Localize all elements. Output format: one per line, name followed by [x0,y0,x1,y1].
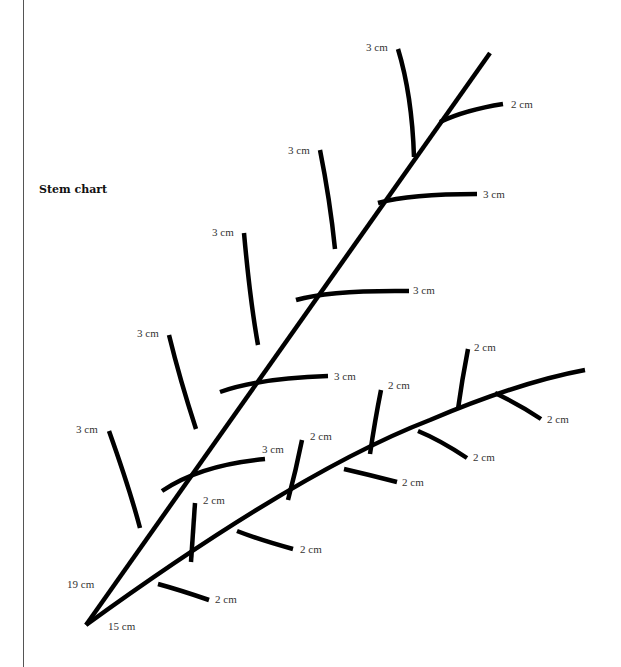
lower-branch-1-label: 2 cm [215,593,237,605]
lower-branch-4 [288,440,302,500]
upper-stem-axis [86,53,490,625]
lower-branch-7-label: 2 cm [473,451,495,463]
lower-branch-7 [418,431,467,458]
lower-branch-4-label: 2 cm [310,430,332,442]
upper-branch-7-label: 3 cm [288,144,310,156]
upper-branch-4-label: 3 cm [334,370,356,382]
upper-stem-length-label: 19 cm [67,578,95,590]
upper-branch-9-label: 3 cm [366,41,388,53]
lower-branch-8 [458,349,468,409]
upper-branch-8 [378,194,477,203]
upper-branch-2 [162,459,265,491]
lower-branch-9-label: 2 cm [547,413,569,425]
lower-branch-3 [237,531,293,549]
upper-branch-7 [320,150,335,249]
upper-branch-5 [244,233,258,345]
upper-branch-1 [109,431,140,528]
upper-branch-10-label: 2 cm [511,98,533,110]
lower-branch-2-label: 2 cm [203,494,225,506]
lower-branch-6-label: 2 cm [388,379,410,391]
lower-branch-5-label: 2 cm [402,476,424,488]
stem-diagram: 3 cm 3 cm 3 cm 3 cm 3 cm 3 cm 3 cm 3 cm … [0,0,621,667]
lower-branch-1 [158,584,209,600]
lower-branch-5 [344,469,397,482]
upper-branch-9 [398,49,414,157]
upper-branch-4 [220,376,328,392]
lower-branch-8-label: 2 cm [474,341,496,353]
lower-branch-2 [191,503,195,562]
lower-stem-length-label: 15 cm [108,620,136,632]
lower-branch-3-label: 2 cm [300,543,322,555]
upper-branch-3-label: 3 cm [137,327,159,339]
upper-branch-8-label: 3 cm [483,188,505,200]
upper-branch-3 [169,335,196,429]
upper-branch-2-label: 3 cm [262,443,284,455]
upper-branch-6-label: 3 cm [413,284,435,296]
lower-branch-9 [495,393,541,419]
upper-branch-6 [296,291,409,300]
upper-branch-5-label: 3 cm [212,226,234,238]
upper-branch-1-label: 3 cm [76,423,98,435]
